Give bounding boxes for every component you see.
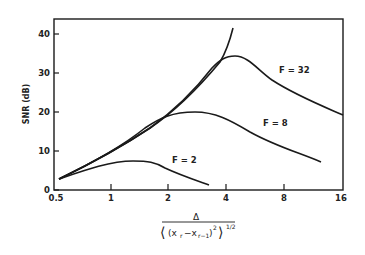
label-f8: F = 8 xyxy=(263,118,288,128)
y-tick-10: 10 xyxy=(38,146,50,156)
svg-text:1/2: 1/2 xyxy=(226,223,236,230)
y-tick-40: 40 xyxy=(38,29,50,39)
svg-text:(x: (x xyxy=(168,228,178,238)
x-tick-4: 4 xyxy=(223,193,229,203)
y-tick-30: 30 xyxy=(38,68,50,78)
x-tick-16: 16 xyxy=(335,193,347,203)
x-tick-1: 1 xyxy=(108,193,114,203)
x-label-numerator: Δ xyxy=(193,212,200,222)
snr-chart: 0 10 20 30 40 0.5 1 2 4 8 16 SNR (dB) F … xyxy=(0,0,365,255)
x-tick-8: 8 xyxy=(281,193,287,203)
envelope-curve xyxy=(59,28,233,179)
y-axis-label: SNR (dB) xyxy=(22,84,31,125)
label-f32: F = 32 xyxy=(279,65,310,75)
svg-text:): ) xyxy=(209,228,213,238)
x-label-denominator: ⟨ (x r −x r−1 ) 2 ⟩ 1/2 xyxy=(160,223,236,240)
svg-text:r: r xyxy=(180,232,183,239)
plot-frame xyxy=(54,19,343,190)
x-tick-0.5: 0.5 xyxy=(48,193,63,203)
svg-text:⟨: ⟨ xyxy=(160,224,165,240)
svg-text:2: 2 xyxy=(213,224,217,231)
x-tick-2: 2 xyxy=(165,193,171,203)
y-axis xyxy=(54,34,59,190)
label-f2: F = 2 xyxy=(172,155,197,165)
y-tick-20: 20 xyxy=(38,107,50,117)
svg-text:−x: −x xyxy=(184,228,198,238)
svg-text:⟩: ⟩ xyxy=(218,224,223,240)
x-axis xyxy=(111,184,284,190)
svg-text:r−1: r−1 xyxy=(198,232,209,239)
